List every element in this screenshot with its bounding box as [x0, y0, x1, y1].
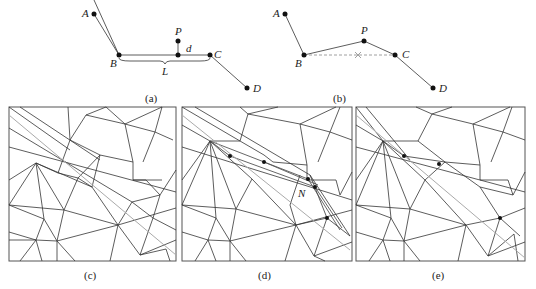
panel-b: A B P C D (b): [272, 7, 447, 105]
label-A: A: [272, 7, 280, 19]
label-C: C: [402, 48, 410, 60]
label-B: B: [110, 57, 117, 69]
figure-canvas: A B P d C L D (a) A B P C D (b): [0, 0, 536, 289]
caption-b: (b): [333, 92, 346, 105]
panel-a: A B P d C L D (a): [81, 0, 261, 105]
label-P: P: [174, 25, 182, 37]
label-N: N: [297, 187, 306, 199]
caption-a: (a): [145, 92, 158, 105]
panel-d: N (d): [182, 107, 352, 282]
label-d: d: [186, 42, 192, 54]
label-C: C: [214, 48, 222, 60]
label-B: B: [295, 57, 302, 69]
label-D: D: [438, 82, 447, 94]
panel-e: (e): [356, 107, 525, 282]
panel-c: (c): [9, 107, 176, 282]
label-L: L: [161, 65, 168, 77]
label-P: P: [360, 24, 368, 36]
label-A: A: [81, 7, 89, 19]
caption-d: (d): [258, 269, 271, 282]
caption-e: (e): [432, 269, 445, 282]
caption-c: (c): [84, 269, 97, 282]
label-D: D: [252, 82, 261, 94]
